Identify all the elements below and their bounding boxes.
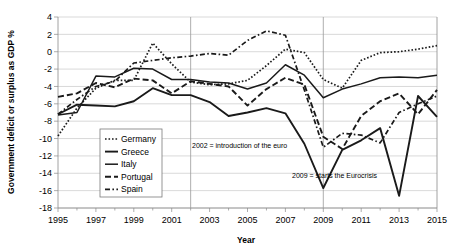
y-tick-label: -6 [44, 99, 52, 109]
y-tick-label: -16 [39, 186, 52, 196]
legend-label-portugal: Portugal [121, 172, 153, 182]
x-tick-label: 2005 [237, 215, 257, 225]
x-tick-label: 2013 [389, 215, 409, 225]
legend-label-greece: Greece [121, 147, 149, 157]
y-tick-label: 0 [47, 47, 52, 57]
y-tick-label: -18 [39, 203, 52, 213]
x-tick-label: 2003 [200, 215, 220, 225]
y-tick-label: -14 [39, 168, 52, 178]
y-tick-label: 2 [47, 30, 52, 40]
chart-container: 420-2-4-6-8-10-12-14-16-18 1995199719992… [0, 0, 450, 251]
x-tick-label: 2011 [352, 215, 371, 225]
x-tick-label: 1997 [86, 215, 106, 225]
legend-label-spain: Spain [121, 184, 143, 194]
x-tick-label: 2007 [275, 215, 295, 225]
x-tick-label: 2009 [313, 215, 333, 225]
line-chart: 420-2-4-6-8-10-12-14-16-18 1995199719992… [0, 0, 450, 251]
y-tick-label: -10 [39, 134, 52, 144]
x-tick-label: 2001 [162, 215, 182, 225]
annotation-eurocrisis-start: 2009 = starts the Eurocrisis [292, 172, 378, 179]
legend-label-italy: Italy [121, 159, 137, 169]
x-axis-title: Year [237, 235, 256, 245]
annotation-euro-introduction: 2002 = introduction of the euro [192, 142, 287, 149]
y-tick-label: -8 [44, 116, 52, 126]
legend-label-germany: Germany [121, 134, 157, 144]
y-tick-label: -12 [39, 151, 52, 161]
legend: GermanyGreeceItalyPortugalSpain [100, 129, 162, 197]
y-axis-title: Government deficit or surplus as GDP % [6, 30, 16, 194]
x-tick-label: 2015 [427, 215, 447, 225]
chart-background [0, 0, 450, 251]
y-tick-label: -2 [44, 64, 52, 74]
x-tick-label: 1999 [124, 215, 144, 225]
y-tick-label: -4 [44, 82, 52, 92]
x-tick-label: 1995 [48, 215, 68, 225]
y-tick-label: 4 [47, 12, 52, 22]
